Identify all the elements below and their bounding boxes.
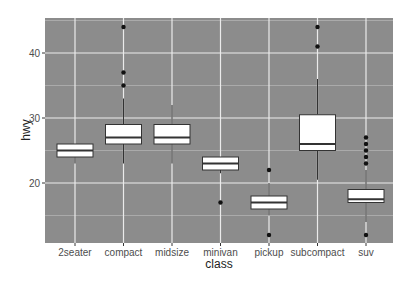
iqr-box bbox=[348, 190, 384, 203]
x-tick-label: suv bbox=[358, 247, 374, 258]
iqr-box bbox=[300, 115, 336, 151]
outlier-point bbox=[364, 135, 368, 139]
y-tick-label: 40 bbox=[29, 48, 41, 59]
outlier-point bbox=[121, 70, 125, 74]
outlier-point bbox=[121, 83, 125, 87]
y-tick-label: 20 bbox=[29, 178, 41, 189]
outlier-point bbox=[364, 148, 368, 152]
x-axis-title: class bbox=[205, 257, 232, 271]
x-tick-label: subcompact bbox=[291, 247, 345, 258]
outlier-point bbox=[364, 155, 368, 159]
x-tick-label: midsize bbox=[155, 247, 189, 258]
outlier-point bbox=[315, 25, 319, 29]
plot-panel bbox=[45, 18, 393, 243]
x-axis: 2seatercompactmidsizeminivanpickupsubcom… bbox=[58, 243, 373, 258]
x-tick-label: 2seater bbox=[58, 247, 92, 258]
boxplot-chart: 203040 2seatercompactmidsizeminivanpicku… bbox=[0, 0, 410, 285]
x-tick-label: pickup bbox=[255, 247, 284, 258]
outlier-point bbox=[121, 25, 125, 29]
outlier-point bbox=[218, 200, 222, 204]
x-tick-label: compact bbox=[105, 247, 143, 258]
outlier-point bbox=[364, 233, 368, 237]
outlier-point bbox=[364, 142, 368, 146]
y-axis: 203040 bbox=[29, 48, 45, 189]
y-axis-title: hwy bbox=[19, 119, 33, 140]
iqr-box bbox=[106, 125, 142, 145]
outlier-point bbox=[364, 161, 368, 165]
outlier-point bbox=[267, 168, 271, 172]
outlier-point bbox=[267, 233, 271, 237]
outlier-point bbox=[315, 44, 319, 48]
iqr-box bbox=[154, 125, 190, 145]
